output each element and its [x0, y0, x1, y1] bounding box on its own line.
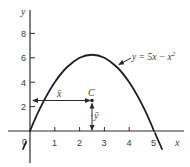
- x-tick-label-4: 4: [127, 138, 132, 148]
- diagram-canvas: 0 1 2 3 4 5 2 4 6 8 y x x̄ C ȳ y = 5x − …: [0, 0, 190, 167]
- x-axis-label: x: [174, 137, 180, 148]
- equation-text: y = 5x − x: [131, 52, 173, 62]
- y-ticks: [30, 33, 35, 106]
- equation-pointer-arrow: [119, 58, 131, 65]
- equation-label: y = 5x − x2: [131, 50, 176, 62]
- y-tick-label-4: 4: [21, 78, 26, 88]
- y-tick-label-2: 2: [21, 102, 26, 112]
- x-tick-label-1: 1: [52, 138, 57, 148]
- y-bar-label: ȳ: [93, 110, 99, 121]
- x-tick-label-5: 5: [151, 138, 156, 148]
- equation-exponent: 2: [172, 50, 176, 58]
- curve-extension-right: [155, 133, 162, 149]
- y-axis-label: y: [20, 6, 26, 17]
- y-tick-label-6: 6: [21, 53, 26, 63]
- centroid-diagram: 0 1 2 3 4 5 2 4 6 8 y x x̄ C ȳ y = 5x − …: [0, 0, 190, 167]
- y-tick-label-8: 8: [21, 29, 26, 39]
- x-bar-label: x̄: [56, 88, 62, 99]
- x-tick-label-2: 2: [77, 138, 82, 148]
- centroid-label: C: [88, 87, 95, 98]
- x-tick-label-3: 3: [102, 138, 107, 148]
- centroid-point: [91, 99, 94, 102]
